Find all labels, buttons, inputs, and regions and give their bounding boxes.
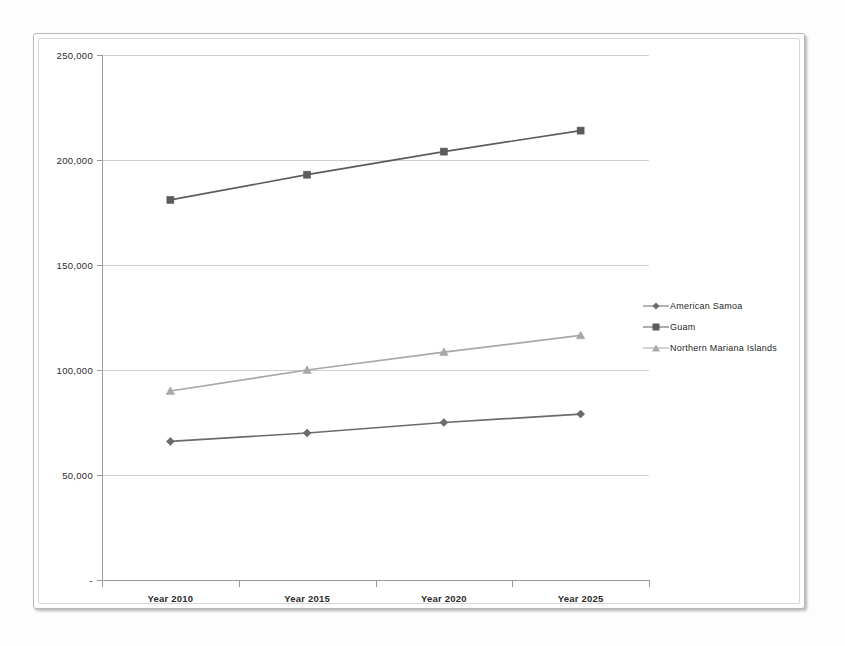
y-axis-label: 250,000 [57, 50, 93, 61]
legend-square-marker-icon [643, 321, 669, 333]
legend-label: American Samoa [670, 301, 743, 311]
legend-label: Northern Mariana Islands [670, 343, 777, 353]
series-line [170, 131, 580, 200]
legend-item-northern-mariana-islands[interactable]: Northern Mariana Islands [643, 337, 795, 358]
x-axis-tick [239, 580, 240, 587]
plot-area: 250,000200,000150,000100,00050,000- Year… [102, 55, 649, 580]
y-axis-label: 150,000 [57, 260, 93, 271]
x-axis-tick [649, 580, 650, 587]
series-line [170, 414, 580, 441]
data-point-marker [304, 171, 311, 178]
data-point-marker [577, 127, 584, 134]
data-point-marker [166, 437, 174, 445]
legend-diamond-marker-icon [643, 300, 669, 312]
data-point-marker [440, 419, 448, 427]
chart-frame: 250,000200,000150,000100,00050,000- Year… [33, 33, 805, 609]
data-point-marker [440, 148, 447, 155]
legend-key-marker [652, 302, 659, 309]
x-axis-label: Year 2010 [148, 593, 194, 604]
x-axis-label: Year 2020 [421, 593, 467, 604]
x-axis-tick [376, 580, 377, 587]
data-point-marker [303, 429, 311, 437]
x-axis-label: Year 2015 [284, 593, 330, 604]
data-point-marker [167, 196, 174, 203]
legend-item-guam[interactable]: Guam [643, 316, 795, 337]
series-layer [102, 55, 649, 580]
x-axis-label: Year 2025 [558, 593, 604, 604]
y-axis-label: 100,000 [57, 365, 93, 376]
legend-item-american-samoa[interactable]: American Samoa [643, 295, 795, 316]
x-axis-tick [102, 580, 103, 587]
x-axis-tick [512, 580, 513, 587]
legend-label: Guam [670, 322, 696, 332]
y-axis-label: 50,000 [62, 470, 93, 481]
legend-key-marker [653, 323, 660, 330]
series-guam [167, 127, 584, 203]
chart-legend: American SamoaGuamNorthern Mariana Islan… [643, 295, 795, 358]
series-line [170, 335, 580, 391]
series-northern-mariana-islands [166, 331, 585, 394]
y-axis-label: - [90, 575, 93, 586]
legend-triangle-marker-icon [643, 342, 669, 354]
legend-key-marker [652, 344, 660, 351]
data-point-marker [577, 410, 585, 418]
y-axis-label: 200,000 [57, 155, 93, 166]
page-canvas: 250,000200,000150,000100,00050,000- Year… [0, 0, 845, 646]
series-american-samoa [166, 410, 584, 445]
chart-frame-inner-border: 250,000200,000150,000100,00050,000- Year… [38, 38, 800, 604]
